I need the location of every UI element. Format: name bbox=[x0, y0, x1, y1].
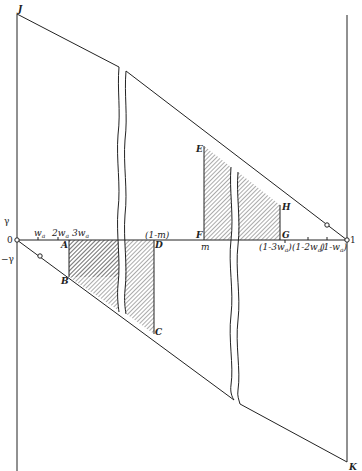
hatched-region-ef bbox=[204, 146, 231, 240]
label-3wa: 3wa bbox=[72, 228, 89, 239]
label-origin: 0 bbox=[7, 235, 13, 245]
label-1-wa: (1-wa) bbox=[320, 242, 348, 253]
upper-diagonal-right bbox=[126, 71, 347, 240]
label-point-g: G bbox=[282, 230, 290, 240]
upper-marker-circle bbox=[325, 223, 329, 227]
label-point-b: B bbox=[60, 276, 69, 286]
label-1-3wa: (1-3wa) bbox=[259, 242, 292, 253]
upper-diagonal-left bbox=[17, 14, 119, 67]
label-j: J bbox=[16, 4, 23, 14]
hatched-region-gh bbox=[238, 172, 280, 240]
label-one: 1 bbox=[350, 235, 356, 245]
label-wa: wa bbox=[34, 228, 46, 239]
label-m: m bbox=[201, 242, 210, 252]
lower-diagonal-right bbox=[240, 404, 347, 462]
label-2wa: 2wa bbox=[51, 228, 69, 239]
label-point-f: F bbox=[195, 230, 203, 240]
hatched-region-ab bbox=[69, 240, 118, 310]
hatched-region-dc bbox=[125, 240, 154, 334]
origin-circle bbox=[15, 238, 19, 242]
label-point-c: C bbox=[155, 327, 163, 337]
diagram-canvas: J K γ 0 −γ 1 wa 2wa 3wa (1-m) m (1-3wa) … bbox=[0, 0, 362, 471]
label-point-a: A bbox=[60, 240, 68, 250]
label-point-h: H bbox=[281, 202, 291, 212]
label-1-m: (1-m) bbox=[145, 230, 170, 240]
label-gamma: γ bbox=[4, 216, 9, 226]
label-point-d: D bbox=[154, 240, 163, 250]
break-line-left-b bbox=[125, 71, 127, 314]
lower-marker-circle bbox=[38, 254, 42, 258]
label-point-e: E bbox=[195, 144, 203, 154]
label-k: K bbox=[348, 462, 358, 471]
label-neg-gamma: −γ bbox=[1, 254, 14, 264]
